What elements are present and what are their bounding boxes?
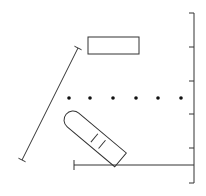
dot [179, 96, 183, 100]
capsule-outline [60, 107, 126, 166]
rectangle-shape [88, 37, 139, 54]
diagonal-bar-line [22, 48, 78, 160]
capsule-shape [60, 107, 126, 166]
capsule-mark [91, 134, 98, 142]
diagonal-bar-cap-top [74, 46, 81, 50]
dot [67, 96, 71, 100]
diagram-canvas [0, 0, 206, 196]
capsule-mark [99, 140, 106, 148]
diagonal-bar-cap-bottom [18, 158, 25, 162]
dot [134, 96, 138, 100]
dot [111, 96, 115, 100]
dot [156, 96, 160, 100]
diagram-svg [0, 0, 206, 196]
dot [88, 96, 92, 100]
